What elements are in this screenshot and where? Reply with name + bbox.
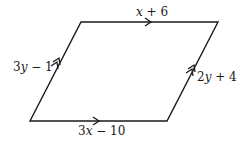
label-left: 3y − 1 <box>13 60 53 74</box>
label-top: x + 6 <box>136 5 168 19</box>
parallelogram-diagram: x + 6 3x − 10 3y − 1 2y + 4 <box>0 0 242 146</box>
parallelogram <box>30 22 218 121</box>
label-right: 2y + 4 <box>197 70 237 84</box>
label-bottom: 3x − 10 <box>78 124 125 138</box>
